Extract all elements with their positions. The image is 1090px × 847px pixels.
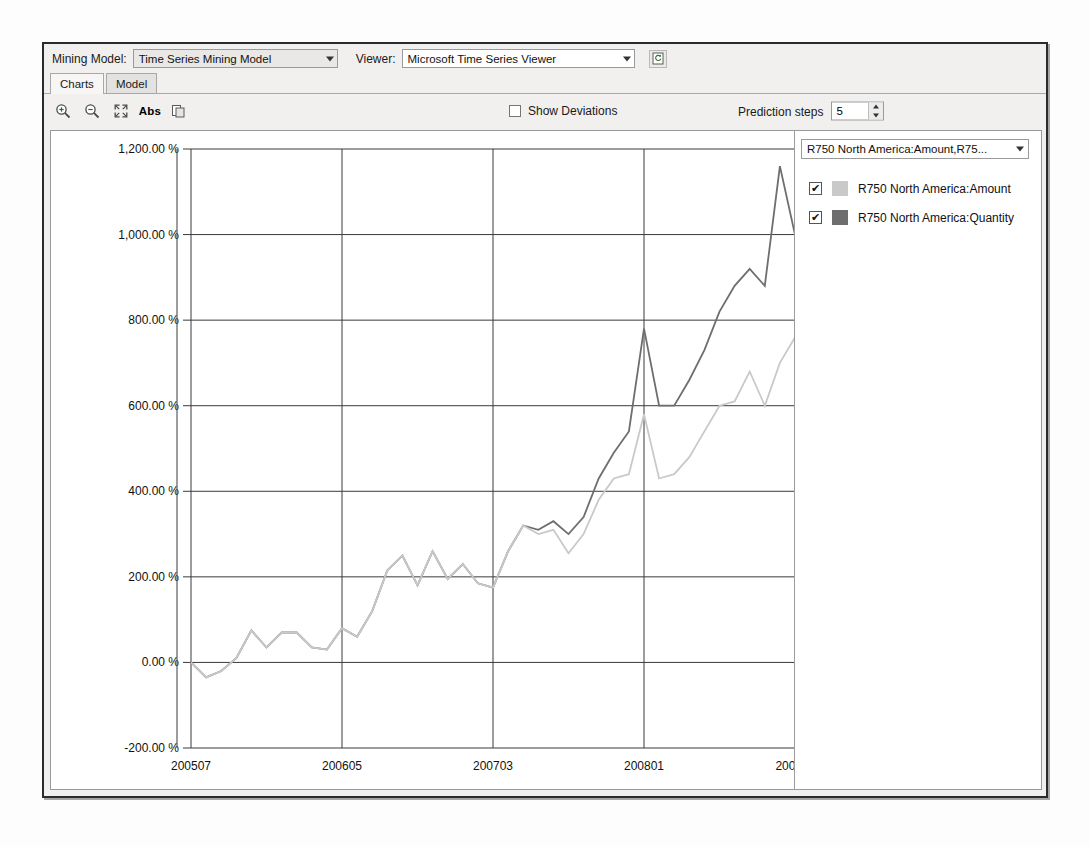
- prediction-steps-value[interactable]: 5: [832, 103, 868, 120]
- copy-icon[interactable]: [170, 102, 188, 120]
- series-selector-dropdown[interactable]: R750 North America:Amount,R75...: [801, 139, 1029, 159]
- tab-bar: Charts Model: [44, 73, 1046, 94]
- svg-text:0.00 %: 0.00 %: [142, 655, 180, 669]
- chevron-down-icon: [1016, 147, 1024, 152]
- legend-items: ✔ R750 North America:Amount ✔ R750 North…: [801, 181, 1035, 225]
- zoom-in-icon[interactable]: [54, 102, 72, 120]
- chevron-down-icon: [326, 56, 334, 61]
- legend-checkbox-quantity[interactable]: ✔: [809, 211, 822, 224]
- svg-text:200605: 200605: [322, 759, 362, 773]
- legend-label-amount: R750 North America:Amount: [858, 182, 1011, 196]
- svg-text:-200.00 %: -200.00 %: [124, 741, 179, 755]
- prediction-steps-label: Prediction steps: [738, 104, 823, 118]
- svg-text:400.00 %: 400.00 %: [128, 484, 179, 498]
- legend-checkbox-amount[interactable]: ✔: [809, 182, 822, 195]
- fit-to-window-icon[interactable]: [112, 102, 130, 120]
- viewer-value: Microsoft Time Series Viewer: [408, 53, 557, 65]
- chart-canvas: 1,200.00 %1,000.00 %800.00 %600.00 %400.…: [51, 131, 794, 789]
- list-item[interactable]: ✔ R750 North America:Quantity: [801, 210, 1035, 225]
- legend-color-swatch-quantity: [832, 210, 848, 225]
- svg-text:200.00 %: 200.00 %: [128, 570, 179, 584]
- legend-panel: R750 North America:Amount,R75... ✔ R750 …: [795, 131, 1041, 789]
- svg-text:200507: 200507: [171, 759, 211, 773]
- zoom-out-icon[interactable]: [83, 102, 101, 120]
- time-series-chart[interactable]: 1,200.00 %1,000.00 %800.00 %600.00 %400.…: [51, 131, 794, 789]
- abs-toggle-icon[interactable]: Abs: [141, 102, 159, 120]
- list-item[interactable]: ✔ R750 North America:Amount: [801, 181, 1035, 196]
- document-refresh-icon[interactable]: [649, 50, 667, 68]
- viewer-content: 1,200.00 %1,000.00 %800.00 %600.00 %400.…: [50, 130, 1042, 790]
- viewer-dropdown[interactable]: Microsoft Time Series Viewer: [402, 49, 635, 68]
- show-deviations-checkbox[interactable]: [509, 105, 521, 117]
- mining-model-value: Time Series Mining Model: [139, 53, 272, 65]
- prediction-steps-control: Prediction steps 5: [738, 102, 884, 121]
- show-deviations-control[interactable]: Show Deviations: [509, 104, 617, 118]
- legend-label-quantity: R750 North America:Quantity: [858, 211, 1014, 225]
- svg-text:200811: 200811: [775, 759, 794, 773]
- viewer-label: Viewer:: [356, 52, 396, 66]
- series-selector-value: R750 North America:Amount,R75...: [807, 143, 987, 155]
- tab-model[interactable]: Model: [106, 73, 157, 93]
- svg-text:600.00 %: 600.00 %: [128, 399, 179, 413]
- stepper-down-icon[interactable]: [869, 111, 883, 120]
- prediction-steps-stepper[interactable]: 5: [831, 102, 884, 121]
- mining-model-label: Mining Model:: [52, 52, 127, 66]
- svg-text:1,200.00 %: 1,200.00 %: [118, 142, 179, 156]
- svg-text:200801: 200801: [624, 759, 664, 773]
- legend-color-swatch-amount: [832, 181, 848, 196]
- chart-toolbar: Abs Show Deviations Prediction steps 5: [44, 94, 1046, 128]
- chevron-down-icon: [623, 56, 631, 61]
- show-deviations-label: Show Deviations: [528, 104, 617, 118]
- svg-text:200703: 200703: [473, 759, 513, 773]
- model-selection-bar: Mining Model: Time Series Mining Model V…: [44, 44, 1046, 73]
- svg-text:1,000.00 %: 1,000.00 %: [118, 228, 179, 242]
- tab-charts[interactable]: Charts: [50, 73, 104, 94]
- stepper-up-icon[interactable]: [869, 103, 883, 112]
- mining-model-dropdown[interactable]: Time Series Mining Model: [133, 49, 338, 68]
- time-series-viewer-window: Mining Model: Time Series Mining Model V…: [42, 42, 1048, 798]
- svg-text:800.00 %: 800.00 %: [128, 313, 179, 327]
